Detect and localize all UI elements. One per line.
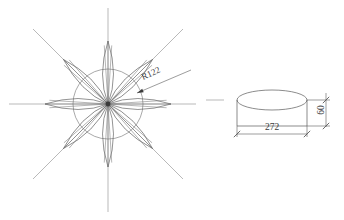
technical-drawing-canvas: R122 272 60	[0, 0, 344, 220]
drawing-background	[0, 0, 344, 220]
rosette-center-hub	[106, 102, 111, 107]
height-dimension-label: 60	[316, 105, 326, 115]
width-dimension-label: 272	[265, 122, 280, 132]
